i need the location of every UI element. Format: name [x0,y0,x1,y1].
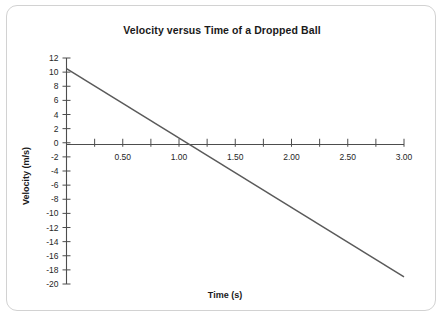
velocity-data-line [67,69,405,277]
x-tick-label: 2.00 [283,152,300,162]
data-series-group [67,69,405,277]
x-tick-label: 1.50 [227,152,244,162]
y-tick-label: 12 [49,53,59,63]
y-tick-label: 8 [54,81,59,91]
y-tick-label: -6 [51,180,59,190]
y-tick-label: -4 [51,166,59,176]
x-axis-title: Time (s) [208,290,242,300]
y-tick-label: 0 [54,138,59,148]
x-tick-label: 2.50 [339,152,356,162]
figure-card: Velocity versus Time of a Dropped Ball V… [6,5,436,311]
y-tick-label: -2 [51,152,59,162]
y-tick-label: 10 [49,67,59,77]
y-axis-title: Velocity (m/s) [21,147,31,205]
y-tick-label: 4 [54,110,59,120]
x-tick-label: 3.00 [396,152,413,162]
y-tick-label: -14 [46,237,59,247]
y-tick-label: -18 [46,265,59,275]
y-tick-label: -12 [46,223,59,233]
x-tick-label: 0.50 [114,152,131,162]
y-tick-label: 2 [54,124,59,134]
y-tick-label: -16 [46,251,59,261]
y-tick-label: 6 [54,95,59,105]
velocity-time-plot: Velocity (m/s) Time (s) 121086420-2-4-6-… [7,6,437,312]
x-tick-group: 0.501.001.502.002.503.00 [95,139,413,162]
y-tick-label: -20 [46,279,59,289]
y-tick-label: -10 [46,208,59,218]
y-tick-label: -8 [51,194,59,204]
x-tick-label: 1.00 [171,152,188,162]
